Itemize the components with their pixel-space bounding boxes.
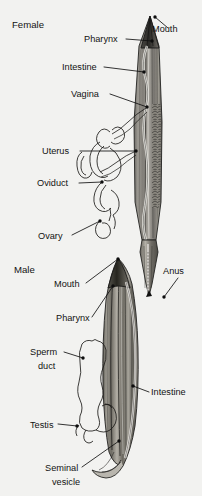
male-worm-body: [92, 258, 138, 478]
label-anus-male[interactable]: Anus: [162, 266, 184, 299]
anchor-dot: [81, 356, 84, 359]
anchor-dot: [98, 219, 101, 222]
label-text: Vagina: [71, 89, 100, 99]
label-text: Ovary: [38, 231, 63, 241]
anchor-dot: [153, 15, 156, 18]
label-intestine-female[interactable]: Intestine: [62, 62, 146, 74]
anchor-dot: [75, 424, 78, 427]
label-text: Mouth: [54, 279, 80, 289]
label-text-line2: vesicle: [52, 477, 80, 487]
label-text: Anus: [163, 266, 184, 276]
anchor-dot: [134, 149, 137, 152]
label-text: Pharynx: [56, 313, 90, 323]
label-text: Mouth: [152, 24, 178, 34]
label-ovary-female[interactable]: Ovary: [38, 219, 102, 241]
anchor-dot: [100, 180, 103, 183]
anatomy-illustration: Female Mouth Pharynx Intestine Vagina: [0, 0, 202, 496]
anchor-dot: [150, 39, 153, 42]
female-tail-inset: [140, 240, 158, 297]
female-section-label: Female: [12, 19, 44, 30]
anchor-dot: [111, 284, 114, 287]
label-text: Intestine: [62, 62, 97, 72]
male-section-label: Male: [14, 264, 35, 275]
anchor-dot: [117, 439, 120, 442]
label-text: Intestine: [151, 387, 186, 397]
label-text: Uterus: [42, 146, 69, 156]
anchor-dot: [131, 384, 134, 387]
label-text: Oviduct: [37, 178, 69, 188]
label-text: Pharynx: [84, 34, 118, 44]
label-testis-male[interactable]: Testis: [30, 420, 79, 430]
label-text-line1: Sperm: [30, 347, 57, 357]
label-oviduct-female[interactable]: Oviduct: [37, 178, 104, 188]
label-mouth-female[interactable]: Mouth: [152, 15, 178, 34]
anchor-dot: [162, 295, 165, 298]
label-intestine-male[interactable]: Intestine: [131, 384, 185, 397]
anchor-dot: [145, 105, 148, 108]
figure-canvas: Female Mouth Pharynx Intestine Vagina: [0, 0, 202, 496]
label-text-line1: Seminal: [45, 463, 78, 473]
anchor-dot: [116, 257, 119, 260]
label-text: Testis: [30, 420, 54, 430]
label-sperm-duct-male[interactable]: Sperm duct: [30, 347, 85, 371]
label-uterus-female[interactable]: Uterus: [42, 146, 138, 156]
male-labels: Male Anus Mouth Pharynx Sperm duct: [14, 257, 186, 487]
female-worm-body: [100, 16, 163, 240]
anchor-dot: [142, 70, 145, 73]
label-text-line2: duct: [38, 361, 56, 371]
